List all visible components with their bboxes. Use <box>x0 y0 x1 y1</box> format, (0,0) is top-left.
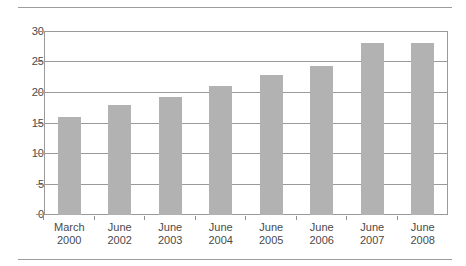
x-tick-mark <box>245 216 246 220</box>
bar-june-2007 <box>361 43 384 215</box>
bar-cell <box>44 31 95 215</box>
x-label-month: June <box>398 221 449 234</box>
bottom-divider-rule <box>18 259 452 260</box>
x-label-month: March <box>44 221 95 234</box>
x-tick-mark <box>346 216 347 220</box>
bar-march-2000 <box>58 117 81 215</box>
bar-cell <box>347 31 398 215</box>
bar-june-2005 <box>260 75 283 215</box>
bar-cell <box>145 31 196 215</box>
bar-june-2003 <box>159 97 182 215</box>
x-axis: March 2000 June 2002 June 2003 June 2004… <box>44 216 448 247</box>
x-label-month: June <box>246 221 297 234</box>
bar-chart-figure: 30 25 20 15 10 5 0 March 2000 <box>0 0 466 266</box>
bar-june-2006 <box>310 66 333 215</box>
x-tick-june-2006: June 2006 <box>297 216 348 247</box>
x-label-year: 2005 <box>246 234 297 247</box>
x-tick-june-2005: June 2005 <box>246 216 297 247</box>
bar-june-2008 <box>411 43 434 215</box>
x-tick-june-2002: June 2002 <box>95 216 146 247</box>
bar-cell <box>246 31 297 215</box>
x-label-year: 2003 <box>145 234 196 247</box>
bar-cell <box>297 31 348 215</box>
bar-series <box>44 31 448 215</box>
x-label-month: June <box>297 221 348 234</box>
bar-cell <box>196 31 247 215</box>
top-divider-rule <box>18 7 452 8</box>
x-label-year: 2000 <box>44 234 95 247</box>
x-label-month: June <box>145 221 196 234</box>
x-label-year: 2007 <box>347 234 398 247</box>
x-tick-mark <box>144 216 145 220</box>
x-tick-june-2003: June 2003 <box>145 216 196 247</box>
x-label-month: June <box>95 221 146 234</box>
x-tick-june-2008: June 2008 <box>398 216 449 247</box>
y-axis: 30 25 20 15 10 5 0 <box>0 0 44 266</box>
x-tick-mark <box>43 216 44 220</box>
y-tick-mark-30 <box>36 31 42 32</box>
y-tick-mark-25 <box>36 61 42 62</box>
x-label-year: 2006 <box>297 234 348 247</box>
x-tick-june-2004: June 2004 <box>196 216 247 247</box>
x-tick-mark <box>94 216 95 220</box>
x-label-year: 2002 <box>95 234 146 247</box>
bar-june-2002 <box>108 105 131 215</box>
y-tick-mark-10 <box>36 153 42 154</box>
x-tick-june-2007: June 2007 <box>347 216 398 247</box>
x-label-year: 2008 <box>398 234 449 247</box>
bar-cell <box>95 31 146 215</box>
x-tick-mark <box>296 216 297 220</box>
x-label-year: 2004 <box>196 234 247 247</box>
y-tick-mark-5 <box>36 184 42 185</box>
bar-june-2004 <box>209 86 232 215</box>
y-tick-mark-20 <box>36 92 42 93</box>
y-tick-mark-0 <box>36 214 42 215</box>
y-tick-mark-15 <box>36 123 42 124</box>
bar-cell <box>398 31 449 215</box>
x-label-month: June <box>196 221 247 234</box>
x-tick-march-2000: March 2000 <box>44 216 95 247</box>
x-tick-mark <box>397 216 398 220</box>
x-label-month: June <box>347 221 398 234</box>
x-tick-mark <box>195 216 196 220</box>
